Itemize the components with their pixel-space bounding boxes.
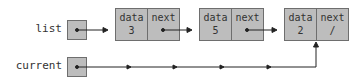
arrow-head-icon xyxy=(314,42,319,47)
arrow-head-icon xyxy=(272,28,277,33)
pointer-arrows xyxy=(0,0,363,81)
arrow-head-icon xyxy=(187,28,192,33)
arrow-head-icon xyxy=(103,28,108,33)
